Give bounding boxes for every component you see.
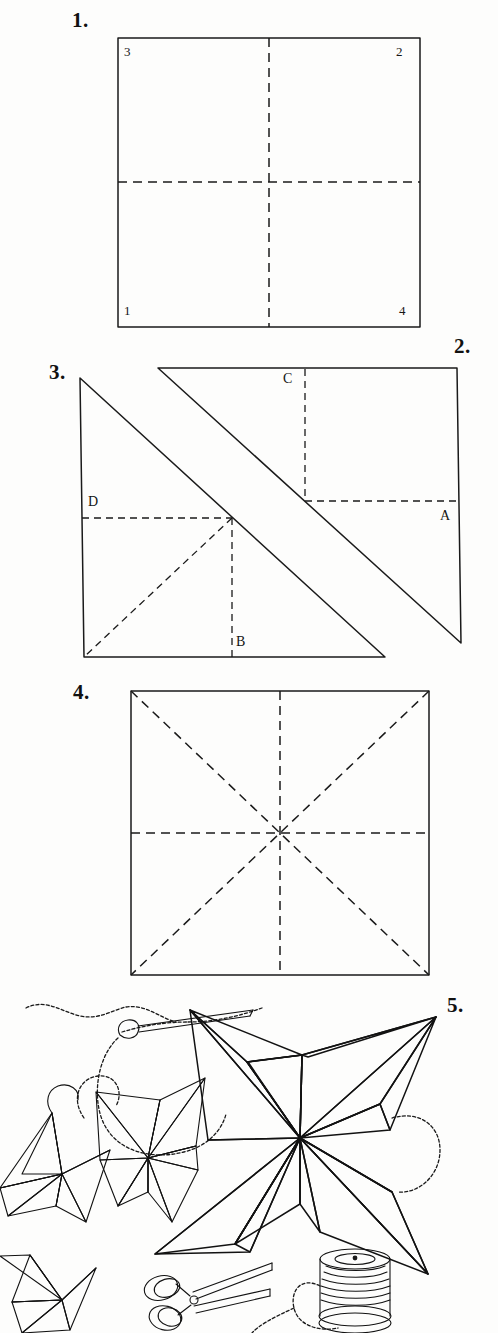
corner-label-4: 4	[399, 303, 406, 319]
thread	[26, 1004, 262, 1154]
thread-spool	[252, 1249, 391, 1333]
point-label-d: D	[88, 494, 98, 510]
step-2-figure	[158, 368, 461, 643]
corner-label-2: 2	[396, 44, 403, 60]
scissors	[141, 1263, 272, 1333]
point-label-b: B	[236, 634, 245, 650]
step-1-number: 1.	[72, 8, 89, 33]
step-4-number: 4.	[73, 680, 90, 705]
thread-loop-right	[392, 1116, 440, 1192]
corner-label-3: 3	[124, 44, 131, 60]
step-4-figure	[131, 691, 429, 975]
sewing-needle	[118, 1010, 253, 1038]
step-3-figure	[80, 378, 385, 657]
point-label-a: A	[440, 508, 450, 524]
step-5-number: 5.	[447, 993, 464, 1018]
point-label-c: C	[283, 371, 292, 387]
step-1-figure	[118, 38, 420, 327]
step-5-figure	[0, 1004, 440, 1333]
instruction-sheet	[0, 0, 498, 1333]
step-2-number: 2.	[454, 334, 471, 359]
small-paper-star-bottom-left	[0, 1255, 96, 1333]
small-paper-star-far-left	[0, 1085, 110, 1222]
large-paper-star	[155, 1010, 436, 1274]
corner-label-1: 1	[124, 303, 131, 319]
step-3-number: 3.	[49, 360, 66, 385]
